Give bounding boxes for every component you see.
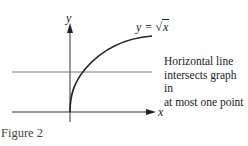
function-label: y = √x <box>136 21 169 33</box>
annotation: Horizontal line intersects graph in at m… <box>164 55 248 109</box>
x-axis-label: x <box>158 106 163 118</box>
figure-caption: Figure 2 <box>1 126 43 141</box>
annotation-line-3: at most one point <box>164 96 248 110</box>
y-axis-label: y <box>66 12 71 24</box>
annotation-line-1: Horizontal line <box>164 55 248 69</box>
function-label-prefix: y = √ <box>136 20 162 34</box>
x-axis-arrow-icon <box>146 109 156 115</box>
annotation-line-2: intersects graph in <box>164 69 248 96</box>
sqrt-curve <box>70 36 152 112</box>
function-label-var: x <box>162 19 169 34</box>
